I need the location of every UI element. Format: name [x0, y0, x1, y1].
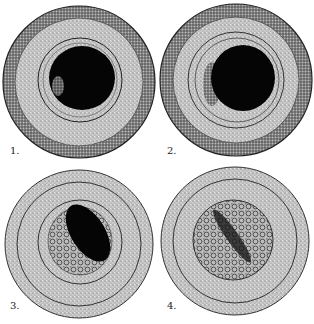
panel-label-1: 1. [10, 145, 20, 156]
panel-label-3: 3. [10, 300, 20, 311]
panel-label-4: 4. [167, 300, 177, 311]
cross-section-3 [5, 170, 153, 318]
cross-section-4 [161, 167, 309, 315]
panel-label-2: 2. [167, 145, 177, 156]
figure-canvas [0, 0, 314, 324]
cross-section-1 [3, 6, 155, 158]
cross-section-2 [160, 4, 312, 156]
